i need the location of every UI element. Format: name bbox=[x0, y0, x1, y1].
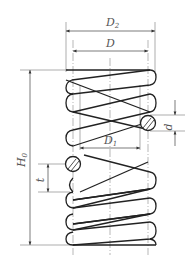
label-mean-diameter: D bbox=[105, 37, 115, 50]
spring-coils bbox=[66, 70, 156, 245]
extension-lines bbox=[20, 22, 185, 245]
wire-section-right bbox=[141, 116, 156, 131]
label-outer-diameter: D2 bbox=[105, 16, 120, 30]
label-inner-diameter: D1 bbox=[103, 134, 117, 148]
wire-section-left bbox=[66, 157, 81, 172]
spring-drawing: D2 D D1 d H0 t bbox=[0, 0, 192, 267]
label-wire-diameter: d bbox=[162, 123, 175, 130]
label-pitch: t bbox=[34, 177, 47, 182]
label-free-height: H0 bbox=[15, 152, 29, 168]
